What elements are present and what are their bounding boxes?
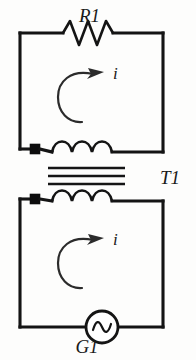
transformer-primary-coil xyxy=(52,142,112,153)
transformer-label: T1 xyxy=(160,167,180,188)
secondary-current-arrow-arc xyxy=(58,239,93,288)
secondary-current-label: i xyxy=(113,230,118,249)
primary-current-label: i xyxy=(113,64,118,83)
transformer-secondary-coil xyxy=(52,191,112,202)
secondary-coil-lead-left xyxy=(40,199,52,201)
primary-loop xyxy=(20,21,163,154)
source-label: G1 xyxy=(75,336,98,357)
circuit-schematic-canvas: R1 T1 G1 i i xyxy=(0,0,196,360)
transformer-core xyxy=(48,168,125,184)
primary-current-arrow-arc xyxy=(58,73,93,122)
secondary-loop xyxy=(20,191,163,344)
resistor-label: R1 xyxy=(78,5,100,26)
circuit-diagram: R1 T1 G1 i i xyxy=(0,0,196,360)
primary-coil-lead-left xyxy=(40,149,52,152)
